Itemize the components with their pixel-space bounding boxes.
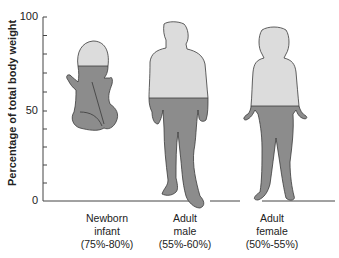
caption-female-line1: Adult (232, 212, 312, 225)
adult-male-figure (149, 22, 208, 208)
y-axis (43, 17, 47, 201)
caption-male-line1: Adult (145, 212, 225, 225)
caption-infant-line2: infant (67, 225, 147, 238)
tick-0: 0 (18, 194, 38, 206)
caption-female: Adult female (50%-55%) (232, 212, 312, 251)
caption-male: Adult male (55%-60%) (145, 212, 225, 251)
tick-100: 100 (18, 10, 38, 22)
caption-male-line2: male (145, 225, 225, 238)
adult-female-figure (244, 27, 307, 200)
caption-infant-line1: Newborn (67, 212, 147, 225)
caption-female-range: (50%-55%) (232, 238, 312, 251)
caption-infant-range: (75%-80%) (67, 238, 147, 251)
caption-infant: Newborn infant (75%-80%) (67, 212, 147, 251)
caption-female-line2: female (232, 225, 312, 238)
infant-figure (67, 41, 118, 130)
tick-50: 50 (18, 104, 38, 116)
caption-male-range: (55%-60%) (145, 238, 225, 251)
